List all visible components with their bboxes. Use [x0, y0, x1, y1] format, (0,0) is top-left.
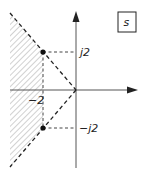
- label-j2: j2: [78, 46, 90, 59]
- real-axis-arrow-icon: [127, 87, 138, 94]
- lower-pole-dot: [40, 125, 45, 130]
- imag-axis-arrow-icon: [73, 11, 80, 22]
- label-minus-2: −2: [28, 94, 44, 107]
- s-plane-diagram: j2 −j2 −2 s: [0, 0, 146, 176]
- s-plane-label: s: [124, 16, 130, 29]
- upper-pole-dot: [40, 49, 45, 54]
- label-minus-j2: −j2: [79, 122, 98, 135]
